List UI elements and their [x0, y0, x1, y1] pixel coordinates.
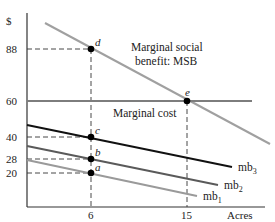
x-tick-6: 6: [88, 209, 94, 221]
point-e: [184, 98, 191, 105]
y-tick-20: 20: [6, 167, 18, 179]
y-tick-40: 40: [6, 131, 18, 143]
point-label-d: d: [95, 36, 101, 48]
point-c: [88, 134, 95, 141]
x-tick-15: 15: [181, 209, 193, 221]
x-axis-label: Acres: [227, 209, 253, 221]
marginal-cost-label: Marginal cost: [113, 107, 177, 120]
point-label-b: b: [95, 146, 101, 158]
msb-label-line1: Marginal social: [131, 41, 203, 54]
y-tick-88: 88: [6, 43, 18, 55]
point-b: [88, 156, 95, 163]
chart: d e c b a $ 88 60 40 28 20 6 15 Acres Ma…: [0, 0, 275, 222]
point-label-c: c: [95, 124, 100, 136]
mb3-line: [27, 125, 232, 167]
mb3-label: mb3: [238, 161, 257, 176]
y-axis-label: $: [6, 15, 12, 27]
point-d: [88, 46, 95, 53]
y-tick-28: 28: [6, 153, 18, 165]
point-a: [88, 170, 95, 177]
mb2-label: mb2: [224, 179, 243, 194]
point-label-e: e: [185, 86, 190, 98]
mb1-label: mb1: [203, 190, 222, 205]
msb-label-line2: benefit: MSB: [135, 55, 198, 67]
point-label-a: a: [95, 161, 101, 173]
mb1-line: [27, 160, 197, 196]
y-tick-60: 60: [6, 95, 18, 107]
guide-lines: [27, 49, 187, 207]
